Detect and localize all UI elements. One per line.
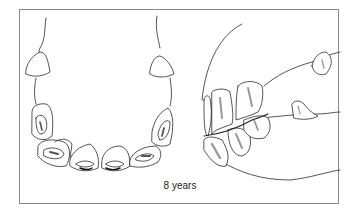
lateral-view-panel [202,24,340,180]
figure-caption: 8 years [0,180,360,191]
occlusal-view-panel [26,16,174,171]
